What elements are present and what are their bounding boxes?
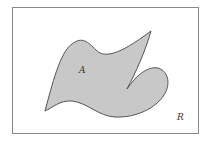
region-a-label: A [78,65,86,75]
diagram-canvas: A R [0,0,211,142]
universe-r-label: R [176,112,184,122]
